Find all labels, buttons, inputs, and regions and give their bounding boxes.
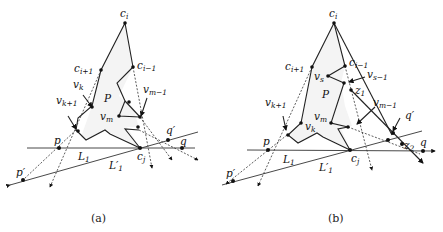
pointer-vmm1-b: [357, 107, 375, 124]
label-vk1: vk+1: [56, 94, 78, 108]
vertex-vmm1: [138, 115, 142, 119]
point-p-prime-b: [231, 179, 235, 183]
ray-vk1-p-b: [226, 135, 287, 184]
label-L1: L1: [77, 150, 90, 164]
pointer-vk1: [68, 116, 76, 129]
vertex-vk: [90, 105, 94, 109]
vertex-vsm1: [342, 81, 346, 85]
label-q: q: [180, 135, 187, 147]
label-z1: z1: [354, 84, 365, 98]
vertex-inner: [136, 125, 140, 129]
label-P-b: P: [321, 88, 330, 100]
vertex-vs: [326, 74, 330, 78]
point-p: [57, 146, 61, 150]
panel-b: ci ci+1 ci−1 vs vs−1 z1 P vm−1 vk+1 vm v…: [222, 7, 435, 225]
panel-a: ci ci+1 ci−1 vk vk+1 P vm vm−1 p p′ q q′…: [10, 7, 198, 225]
label-L1-prime-b: L′1: [318, 161, 333, 175]
vertex-vk-b: [299, 121, 303, 125]
point-z1: [349, 88, 353, 92]
figure-canvas: ci ci+1 ci−1 vk vk+1 P vm vm−1 p p′ q q′…: [0, 0, 443, 232]
point-q-b: [421, 149, 425, 153]
vertex-cim1: [131, 65, 135, 69]
pointer-vmm1: [141, 98, 147, 116]
label-vmm1-b: vm−1: [373, 96, 397, 110]
vertex-vm-b: [329, 121, 333, 125]
label-p-b: p: [263, 135, 270, 147]
point-q-prime-b: [391, 131, 395, 135]
vertex-ci1-b: [310, 65, 314, 69]
caption-a: (a): [91, 212, 106, 225]
label-vk: vk: [73, 78, 84, 92]
label-P: P: [103, 92, 112, 104]
vertex-ci1: [99, 68, 103, 72]
point-intersect-b: [386, 138, 390, 142]
label-cim1-b: ci−1: [349, 56, 368, 70]
label-vsm1: vs−1: [367, 68, 388, 82]
vertex-ci: [123, 21, 127, 25]
label-q-prime: q′: [166, 124, 176, 136]
vertex-vk1-b: [286, 133, 290, 137]
ray-vk1-p: [23, 130, 76, 180]
label-ci1-b: ci+1: [285, 60, 304, 74]
pointer-vk1-b: [283, 116, 286, 130]
label-q-prime-b: q′: [405, 109, 415, 121]
label-vmm1: vm−1: [143, 83, 167, 97]
point-p-b: [266, 148, 270, 152]
vertex-vk1: [76, 129, 80, 133]
pointer-vk: [83, 95, 92, 107]
label-ci-b: ci: [329, 7, 338, 21]
vertex-vm: [117, 114, 121, 118]
label-cim1: ci−1: [137, 59, 156, 73]
label-cj: cj: [137, 150, 146, 164]
label-cj-b: cj: [351, 152, 360, 166]
label-ci1: ci+1: [74, 62, 93, 76]
label-ci: ci: [120, 7, 129, 21]
vertex-cim1-b: [343, 64, 347, 68]
point-p-prime: [21, 178, 25, 182]
label-z2: z2: [403, 139, 415, 153]
label-q-b: q: [420, 136, 427, 148]
point-q-prime: [166, 138, 170, 142]
label-L1-b: L1: [282, 153, 295, 167]
label-p-prime-b: p′: [226, 167, 236, 179]
caption-b: (b): [328, 212, 344, 225]
label-vk1-b: vk+1: [265, 96, 287, 110]
pointer-q-prime-b: [393, 118, 400, 131]
label-p-prime: p′: [16, 166, 26, 178]
line-L1-prime-b: [222, 131, 422, 185]
label-L1-prime: L′1: [108, 159, 123, 173]
vertex-ci-b: [332, 21, 336, 25]
vertex-notch: [127, 100, 131, 104]
vertex-vmm1-b: [346, 125, 350, 129]
label-p: p: [54, 134, 61, 146]
pointer-vsm1: [349, 77, 365, 82]
